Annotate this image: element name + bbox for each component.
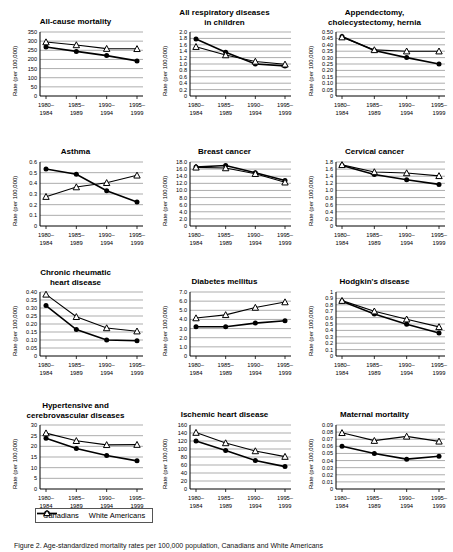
x-tick-label: 1995– [129,232,146,238]
y-tick-label: 0.7 [325,308,333,314]
y-axis-label: Rate (per 100,000) [162,176,168,226]
data-point-white-americans [134,172,140,178]
x-tick-label: 1989 [368,110,381,116]
data-point-canadians [372,451,377,456]
y-tick-label: 30 [31,422,37,428]
y-tick-label: 16.0 [176,166,187,172]
y-tick-label: 150 [28,66,37,72]
y-tick-label: 1 [330,289,333,295]
y-tick-label: 0.2 [325,340,333,346]
y-tick-label: 0.8 [325,195,333,201]
figure-legend: Canadians White Americans [35,508,153,523]
chart-plot: 01.02.03.04.05.06.07.01980–19841985–1989… [150,260,299,385]
data-point-canadians [437,330,442,335]
data-point-canadians [404,322,409,327]
y-tick-label: 0 [184,486,187,492]
x-tick-label: 1990– [99,232,116,238]
y-tick-label: 0.4 [325,327,333,333]
x-tick-label: 1995– [431,495,448,501]
x-tick-label: 1999 [433,110,446,116]
x-tick-label: 1980– [188,232,205,238]
y-axis-label: Rate (per 100,000) [162,306,168,356]
y-tick-label: 5 [34,475,37,481]
y-tick-label: 0 [34,353,37,359]
y-tick-label: 120 [178,438,187,444]
legend-item-white-americans: White Americans [89,511,145,520]
y-tick-label: 0.2 [29,202,37,208]
y-tick-label: 14.0 [176,173,187,179]
x-tick-label: 1994 [249,240,263,246]
y-tick-label: 6.0 [179,298,187,304]
x-tick-label: 1985– [366,232,383,238]
y-tick-label: 0.10 [322,80,333,86]
y-axis-label: Rate (per 100,000) [12,439,18,489]
y-tick-label: 0.5 [325,321,333,327]
x-tick-label: 1994 [100,110,114,116]
chart-panel: Breast cancer02.04.06.08.010.012.014.016… [150,130,299,255]
y-axis-label: Rate (per 100,000) [308,176,314,226]
y-tick-label: 0.6 [29,159,37,165]
chart-plot: 0510152025301980–19841985–19891990–19941… [0,393,151,518]
x-tick-label: 1980– [334,495,351,501]
y-tick-label: 0 [34,486,37,492]
y-tick-label: 0 [330,353,333,359]
y-tick-label: 200 [28,56,37,62]
data-point-canadians [437,62,442,67]
x-tick-label: 1985– [68,495,85,501]
data-point-canadians [194,37,199,42]
data-point-canadians [104,453,109,458]
y-axis-label: Rate (per 100,000) [12,176,18,226]
y-tick-label: 0.30 [26,305,37,311]
data-point-canadians [253,458,258,463]
x-tick-label: 1989 [368,240,381,246]
y-tick-label: 0.25 [322,61,333,67]
y-tick-label: 18.0 [176,159,187,165]
y-tick-label: 0.05 [322,87,333,93]
y-tick-label: 4.0 [179,316,187,322]
x-tick-label: 1990– [399,362,416,368]
y-tick-label: 0.02 [322,472,333,478]
y-tick-label: 1.2 [325,180,333,186]
y-tick-label: 100 [28,75,37,81]
x-tick-label: 1994 [249,503,263,509]
y-tick-label: 1.0 [179,344,187,350]
y-tick-label: 0.45 [322,35,333,41]
x-tick-label: 1980– [188,495,205,501]
y-tick-label: 0.03 [322,465,333,471]
chart-plot: 00.10.20.30.40.50.61980–19841985–1989199… [0,130,151,255]
data-point-canadians [404,55,409,60]
x-tick-label: 1985– [218,232,235,238]
x-tick-label: 1994 [100,240,114,246]
y-tick-label: 0 [34,93,37,99]
x-tick-label: 1985– [218,102,235,108]
chart-plot: 02.04.06.08.010.012.014.016.018.01980–19… [150,130,299,255]
data-point-canadians [74,49,79,54]
y-tick-label: 0.8 [179,67,187,73]
x-tick-label: 1990– [247,495,264,501]
data-point-canadians [194,324,199,329]
chart-plot: 00.050.100.150.200.250.300.350.400.450.5… [296,0,453,125]
series-line [342,37,439,51]
chart-plot: 00.10.20.30.40.50.60.70.80.911980–198419… [296,260,453,385]
x-tick-label: 1984 [336,370,350,376]
x-tick-label: 1995– [129,362,146,368]
y-tick-label: 15 [31,454,37,460]
figure-caption: Figure 2. Age-standardized mortality rat… [14,541,442,552]
x-tick-label: 1989 [368,370,381,376]
x-tick-label: 1999 [433,370,446,376]
x-tick-label: 1989 [219,240,232,246]
x-tick-label: 1990– [247,232,264,238]
x-tick-label: 1999 [131,110,144,116]
data-point-canadians [135,58,140,63]
x-tick-label: 1999 [433,503,446,509]
y-axis-label: Rate (per 100,000) [12,306,18,356]
x-tick-label: 1989 [368,503,381,509]
y-tick-label: 0.04 [322,458,333,464]
data-point-canadians [404,177,409,182]
data-point-white-americans [339,430,345,436]
y-tick-label: 350 [28,29,37,35]
y-tick-label: 0.40 [322,42,333,48]
data-point-canadians [223,448,228,453]
x-tick-label: 1994 [400,503,414,509]
data-point-canadians [404,457,409,462]
